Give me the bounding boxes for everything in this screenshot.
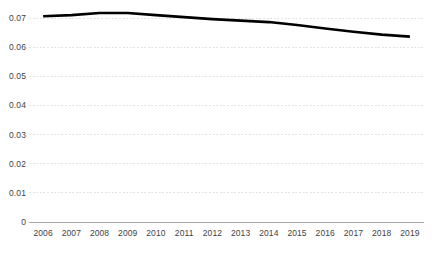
x-tick-label: 2011 (175, 228, 194, 238)
x-tick-label: 2017 (344, 228, 363, 238)
x-tick-label: 2018 (372, 228, 391, 238)
x-tick-label: 2009 (118, 228, 137, 238)
x-tick-label: 2012 (203, 228, 222, 238)
x-tick-label: 2013 (231, 228, 250, 238)
x-tick-label: 2007 (62, 228, 81, 238)
x-tick-label: 2010 (146, 228, 165, 238)
line-chart: 00.010.020.030.040.050.060.07 2006200720… (0, 0, 438, 254)
x-tick-label: 2008 (90, 228, 109, 238)
x-tick-label: 2015 (287, 228, 306, 238)
x-axis-tick-labels: 2006200720082009201020112012201320142015… (0, 0, 438, 254)
x-tick-label: 2019 (400, 228, 419, 238)
x-tick-label: 2014 (259, 228, 278, 238)
x-tick-label: 2006 (33, 228, 52, 238)
x-tick-label: 2016 (316, 228, 335, 238)
